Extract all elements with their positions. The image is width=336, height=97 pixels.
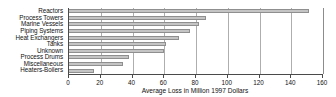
gridline bbox=[323, 8, 324, 74]
bar-row bbox=[69, 48, 323, 55]
bar-marine-vessels bbox=[69, 22, 199, 26]
y-axis-tick-label: Heaters-Boilers bbox=[0, 67, 66, 74]
bar-miscellaneous bbox=[69, 62, 123, 66]
bar-row bbox=[69, 34, 323, 41]
bar-process-towers bbox=[69, 16, 206, 20]
bar-row bbox=[69, 41, 323, 48]
bar-tanks bbox=[69, 42, 166, 46]
y-axis-category-labels: Reactors Process Towers Marine Vessels P… bbox=[0, 8, 66, 74]
bar-row bbox=[69, 15, 323, 22]
bar-series bbox=[69, 8, 323, 74]
horizontal-bar-chart: Reactors Process Towers Marine Vessels P… bbox=[0, 0, 336, 97]
bar-heaters-boilers bbox=[69, 69, 94, 73]
bar-row bbox=[69, 54, 323, 61]
bar-piping-systems bbox=[69, 29, 190, 33]
bar-process-drums bbox=[69, 55, 129, 59]
plot-area bbox=[68, 8, 323, 75]
bar-unknown bbox=[69, 49, 164, 53]
bar-row bbox=[69, 21, 323, 28]
x-axis-title: Average Loss in Million 1997 Dollars bbox=[68, 86, 322, 95]
bar-row bbox=[69, 28, 323, 35]
bar-row bbox=[69, 8, 323, 15]
bar-row bbox=[69, 61, 323, 68]
bar-heat-exchangers bbox=[69, 36, 179, 40]
bar-reactors bbox=[69, 9, 309, 13]
bar-row bbox=[69, 67, 323, 74]
